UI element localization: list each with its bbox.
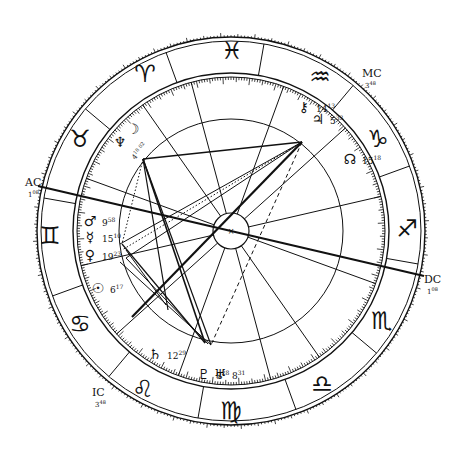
outer-tick	[348, 73, 351, 76]
saturn-position: 1229	[167, 349, 186, 361]
inner-tick	[154, 362, 156, 365]
outer-tick	[34, 207, 38, 208]
sun-position: 617	[110, 283, 124, 295]
outer-tick	[358, 377, 359, 378]
inner-tick	[118, 126, 120, 128]
inner-tick	[128, 342, 131, 346]
inner-tick	[275, 375, 276, 378]
outer-tick	[49, 307, 53, 309]
sign-boundary	[44, 198, 76, 204]
inner-tick	[82, 268, 85, 269]
sign-boundary	[166, 52, 177, 82]
inner-tick	[145, 103, 147, 105]
inner-tick	[130, 345, 132, 347]
inner-tick	[348, 326, 350, 328]
outer-tick	[41, 173, 45, 174]
inner-tick	[268, 82, 269, 85]
inner-tick	[300, 366, 301, 369]
outer-tick	[103, 83, 104, 84]
inner-tick	[110, 136, 112, 138]
inner-tick	[79, 257, 82, 258]
center-mark-icon: ×	[228, 227, 235, 236]
outer-tick	[44, 288, 46, 289]
outer-tick	[384, 350, 385, 351]
house-cusp-1	[81, 235, 214, 266]
inner-tick	[377, 270, 380, 271]
inner-tick	[322, 352, 324, 354]
inner-tick	[82, 194, 85, 195]
inner-tick	[82, 191, 85, 192]
outer-tick	[54, 141, 58, 143]
outer-tick	[353, 79, 354, 80]
inner-tick	[91, 166, 94, 167]
inner-tick	[268, 378, 269, 381]
outer-tick	[368, 93, 369, 94]
inner-tick	[288, 371, 289, 374]
sign-capricorn-icon: ♑	[367, 125, 389, 153]
outer-tick	[110, 76, 112, 78]
outer-tick	[380, 105, 381, 106]
sign-boundary	[352, 333, 377, 354]
outer-tick	[46, 167, 48, 168]
sign-gemini-icon: ♊	[39, 222, 61, 250]
inner-tick	[86, 283, 89, 284]
inner-tick	[295, 368, 296, 371]
inner-tick	[375, 186, 378, 187]
inner-tick	[379, 199, 382, 200]
inner-tick	[140, 353, 142, 355]
inner-tick	[110, 323, 114, 326]
neptune-icon: ♆	[114, 134, 127, 150]
outer-tick	[350, 384, 352, 386]
inner-tick	[186, 372, 188, 379]
outer-tick	[81, 356, 82, 357]
inner-tick	[338, 338, 340, 340]
house-cusp-8	[244, 128, 345, 219]
outer-tick	[345, 73, 346, 74]
inner-tick	[368, 295, 371, 296]
inner-tick	[149, 100, 151, 103]
natal-chart-wheel: ♈♉♊♋♌♍♎♏♐♑♒♓ ☽♆418 02♂958☿1510♀1923☉617♄…	[0, 0, 463, 455]
inner-tick	[94, 300, 97, 301]
inner-tick	[375, 278, 378, 279]
inner-tick	[348, 134, 350, 136]
inner-tick	[270, 82, 271, 85]
inner-tick	[189, 83, 190, 86]
outer-tick	[291, 45, 292, 47]
inner-tick	[320, 353, 322, 355]
inner-tick	[362, 298, 368, 301]
outer-tick	[307, 410, 309, 414]
inner-tick	[166, 91, 167, 94]
angle-mc-label: MC	[362, 67, 382, 80]
inner-tick	[161, 94, 162, 97]
house-cusp-4	[236, 248, 271, 379]
inner-tick	[124, 340, 126, 342]
outer-tick	[356, 380, 357, 381]
inner-tick	[83, 189, 86, 190]
inner-tick	[168, 90, 169, 93]
inner-tick	[173, 369, 175, 374]
inner-tick	[103, 315, 105, 317]
outer-tick	[48, 157, 51, 158]
inner-tick	[328, 347, 330, 349]
inner-tick	[199, 80, 200, 83]
inner-tick	[348, 136, 352, 139]
house-cusp-7	[249, 196, 382, 227]
inner-tick	[292, 369, 293, 372]
inner-tick	[374, 181, 377, 182]
mercury-icon: ☿	[86, 229, 95, 245]
outer-tick	[90, 95, 91, 96]
sign-aries-icon: ♈	[134, 60, 156, 88]
inner-tick	[80, 262, 83, 263]
outer-tick	[373, 96, 376, 99]
inner-tick	[310, 100, 313, 104]
chart-center: ×	[228, 227, 235, 236]
angle-mc-degree: 348	[365, 80, 376, 90]
inner-tick	[353, 320, 355, 322]
inner-tick	[145, 356, 147, 358]
inner-tick	[176, 87, 177, 90]
outer-tick	[97, 373, 98, 374]
inner-tick	[140, 106, 142, 108]
inner-tick	[84, 275, 87, 276]
inner-tick	[171, 89, 174, 95]
inner-tick	[102, 147, 105, 149]
